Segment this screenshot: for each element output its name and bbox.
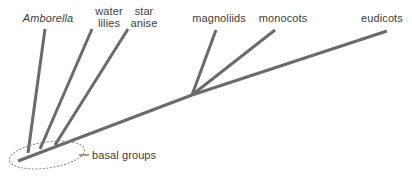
branch-amborella xyxy=(28,29,45,153)
basal-groups-ellipse xyxy=(8,137,87,173)
branch-water-lilies xyxy=(40,29,92,149)
tip-label-star-anise: star anise xyxy=(123,5,165,29)
branch-eudicots xyxy=(192,31,387,95)
tip-label-eudicots: eudicots xyxy=(357,12,407,24)
tip-label-amborella: Amborella xyxy=(13,12,83,24)
tip-label-magnoliids: magnoliids xyxy=(189,12,249,24)
branch-lines xyxy=(18,29,387,161)
tip-label-monocots: monocots xyxy=(256,12,310,24)
annotation-label-basal-groups: basal groups xyxy=(92,149,156,161)
tree-branches-svg xyxy=(0,0,412,180)
phylogenetic-tree-diagram: Amborella water lilies star anise magnol… xyxy=(0,0,412,180)
